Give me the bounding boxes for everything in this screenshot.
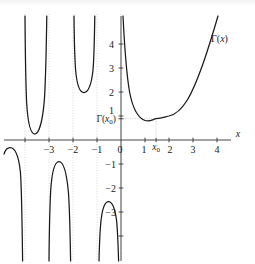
curve-branch-pos-3-to-4 [25, 16, 47, 134]
annotation-gamma-x0: Γ(x0) [96, 114, 116, 126]
curve-label-gamma: Γ(x) [211, 33, 228, 45]
y-tick-label-3: 3 [109, 63, 114, 74]
gamma-function-figure: −3 −2 −1 0 1 2 3 4 4 3 2 1 −1 −2 −3 x Γ(… [0, 0, 255, 264]
gamma-function-plot: −3 −2 −1 0 1 2 3 4 4 3 2 1 −1 −2 −3 x Γ(… [0, 0, 255, 264]
x-tick-label--3: −3 [44, 144, 55, 155]
curve-branch-neg-2-to-3 [49, 162, 71, 262]
y-tick-labels: 4 3 2 1 −1 −2 −3 [105, 39, 116, 218]
y-tick-label--3: −3 [105, 207, 116, 218]
annotation-x0: x0 [151, 142, 160, 154]
x-tick-label--1: −1 [92, 144, 103, 155]
x-axis-label: x [235, 128, 241, 139]
gamma-curves [4, 16, 218, 261]
y-tick-label--1: −1 [105, 159, 116, 170]
curve-branch-positive [123, 16, 218, 121]
x-tick-label-4: 4 [215, 144, 220, 155]
y-tick-label-2: 2 [109, 87, 114, 98]
minimum-leader-lines [118, 119, 156, 140]
x-tick-label-3: 3 [191, 144, 196, 155]
y-tick-label-4: 4 [109, 39, 114, 50]
x-tick-label-2: 2 [168, 144, 173, 155]
curve-branch-pos-1-to-2 [74, 16, 95, 93]
x-tick-labels: −3 −2 −1 0 1 2 3 4 [44, 144, 220, 155]
y-tick-label--2: −2 [105, 183, 116, 194]
x-tick-label-1: 1 [142, 144, 147, 155]
x-tick-label-0: 0 [118, 144, 123, 155]
gridlines-vertical [25, 14, 121, 261]
curve-branch-neg-left-edge [4, 148, 23, 262]
x-tick-label--2: −2 [68, 144, 79, 155]
